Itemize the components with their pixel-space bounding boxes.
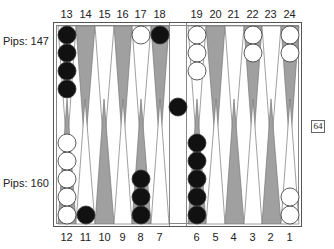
white-checker: [244, 26, 262, 44]
board-graphics: [54, 23, 303, 228]
point-label-4: 4: [224, 231, 243, 243]
black-checker: [188, 206, 206, 224]
black-checker: [132, 188, 150, 206]
point-label-18: 18: [150, 8, 169, 20]
white-checker: [58, 188, 76, 206]
point-label-1: 1: [280, 231, 299, 243]
white-checker: [281, 44, 299, 62]
point-11: [76, 99, 95, 224]
point-2: [262, 99, 281, 224]
point-label-5: 5: [206, 231, 225, 243]
black-checker: [188, 134, 206, 152]
white-checker: [281, 206, 299, 224]
pips-bottom-label: Pips: 160: [3, 177, 49, 189]
white-checker: [188, 26, 206, 44]
white-checker: [188, 62, 206, 80]
black-checker: [58, 80, 76, 98]
black-checker: [58, 26, 76, 44]
point-label-19: 19: [187, 8, 206, 20]
black-checker: [151, 26, 169, 44]
black-checker: [58, 62, 76, 80]
point-label-13: 13: [57, 8, 76, 20]
point-label-16: 16: [113, 8, 132, 20]
black-checker: [188, 188, 206, 206]
white-checker: [244, 44, 262, 62]
point-label-17: 17: [131, 8, 150, 20]
point-7: [151, 99, 169, 224]
black-checker: [188, 152, 206, 170]
black-checker: [77, 206, 95, 224]
black-checker: [132, 206, 150, 224]
black-checker-on-bar: [169, 98, 187, 116]
point-label-2: 2: [261, 231, 280, 243]
white-checker: [132, 26, 150, 44]
white-checker: [58, 170, 76, 188]
point-4: [225, 99, 244, 224]
point-10: [95, 99, 114, 224]
point-3: [244, 99, 262, 224]
white-checker: [281, 188, 299, 206]
point-5: [206, 99, 225, 224]
white-checker: [58, 206, 76, 224]
white-checker: [188, 44, 206, 62]
white-checker: [58, 152, 76, 170]
point-label-11: 11: [76, 231, 95, 243]
point-label-10: 10: [95, 231, 114, 243]
point-label-14: 14: [76, 8, 95, 20]
black-checker: [58, 44, 76, 62]
doubling-cube[interactable]: 64: [311, 120, 325, 133]
point-label-9: 9: [113, 231, 132, 243]
pips-top-label: Pips: 147: [3, 35, 49, 47]
backgammon-board: [53, 22, 302, 227]
point-label-24: 24: [280, 8, 299, 20]
point-label-3: 3: [243, 231, 262, 243]
black-checker: [188, 170, 206, 188]
point-label-8: 8: [131, 231, 150, 243]
black-checker: [132, 170, 150, 188]
point-label-23: 23: [261, 8, 280, 20]
point-label-21: 21: [224, 8, 243, 20]
white-checker: [58, 134, 76, 152]
point-label-20: 20: [206, 8, 225, 20]
point-label-6: 6: [187, 231, 206, 243]
point-9: [114, 99, 132, 224]
point-label-15: 15: [95, 8, 114, 20]
white-checker: [281, 26, 299, 44]
point-label-12: 12: [57, 231, 76, 243]
point-label-7: 7: [150, 231, 169, 243]
point-label-22: 22: [243, 8, 262, 20]
